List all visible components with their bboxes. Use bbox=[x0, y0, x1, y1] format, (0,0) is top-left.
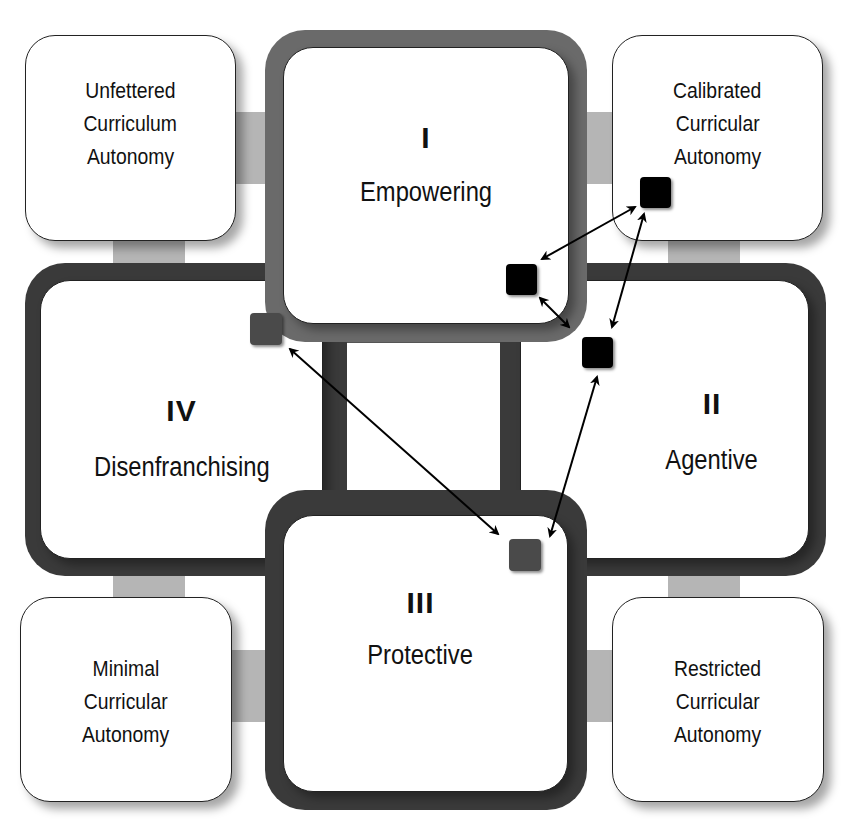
arrow-agentive-protective bbox=[550, 377, 597, 536]
arrow-calibrated-agentive bbox=[612, 214, 644, 327]
arrow-disenfranchising-protective bbox=[290, 349, 498, 534]
arrows-layer bbox=[0, 0, 856, 828]
arrow-empowering-calibrated bbox=[542, 207, 635, 259]
arrow-empowering-agentive bbox=[540, 298, 569, 327]
